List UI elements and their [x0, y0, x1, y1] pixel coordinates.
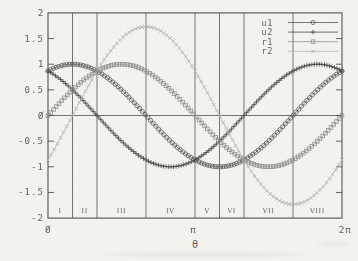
chart-svg: u1u2r1r2IIIIIIIVVVIVIIVIII21.510.50-0.5-…: [0, 0, 358, 261]
x-axis-title: θ: [48, 239, 342, 250]
scanned-chart-figure: u1u2r1r2IIIIIIIVVVIVIIVIII21.510.50-0.5-…: [0, 0, 358, 261]
paper-grain-overlay: [0, 0, 358, 261]
